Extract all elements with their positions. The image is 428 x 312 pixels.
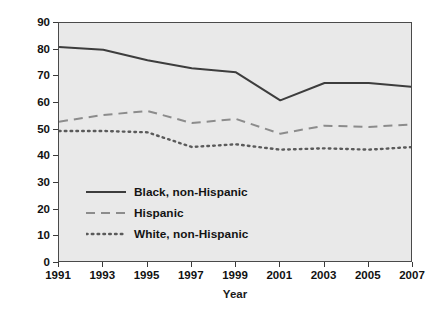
x-tick-mark-1999 <box>235 262 236 267</box>
y-axis-title: Percentage <box>2 0 24 44</box>
y-tick-label-20: 20 <box>24 203 50 214</box>
y-tick-label-70: 70 <box>24 70 50 81</box>
x-tick-mark-2005 <box>368 262 369 267</box>
legend-swatch-black-non-hispanic-icon <box>86 186 126 198</box>
x-tick-label-1997: 1997 <box>169 269 213 282</box>
x-tick-label-2001: 2001 <box>257 269 301 282</box>
x-tick-mark-2007 <box>412 262 413 267</box>
x-tick-label-2003: 2003 <box>302 269 346 282</box>
x-tick-label-1995: 1995 <box>125 269 169 282</box>
y-axis-tick-labels: 0102030405060708090 <box>22 0 50 312</box>
legend-label-black-non-hispanic: Black, non-Hispanic <box>134 185 248 199</box>
legend-item-black-non-hispanic: Black, non-Hispanic <box>86 182 248 202</box>
x-axis-tick-marks <box>58 262 412 268</box>
series-line-white-non-hispanic <box>59 131 412 150</box>
x-tick-mark-2001 <box>279 262 280 267</box>
y-tick-label-0: 0 <box>24 257 50 268</box>
y-tick-label-10: 10 <box>24 230 50 241</box>
x-axis-tick-labels: 199119931995199719992001200320052007 <box>58 269 412 285</box>
legend-swatch-white-non-hispanic-icon <box>86 228 126 240</box>
y-tick-label-60: 60 <box>24 97 50 108</box>
x-tick-label-2007: 2007 <box>390 269 428 282</box>
x-tick-label-1993: 1993 <box>80 269 124 282</box>
x-tick-mark-1995 <box>147 262 148 267</box>
x-tick-mark-1997 <box>191 262 192 267</box>
x-tick-mark-1991 <box>58 262 59 267</box>
y-tick-label-40: 40 <box>24 150 50 161</box>
x-tick-label-2005: 2005 <box>346 269 390 282</box>
y-tick-label-90: 90 <box>24 17 50 28</box>
x-tick-label-1999: 1999 <box>213 269 257 282</box>
chart-legend: Black, non-HispanicHispanicWhite, non-Hi… <box>86 182 316 244</box>
y-tick-label-30: 30 <box>24 177 50 188</box>
legend-item-white-non-hispanic: White, non-Hispanic <box>86 224 248 244</box>
legend-swatch-hispanic-icon <box>86 207 126 219</box>
x-tick-mark-2003 <box>324 262 325 267</box>
y-tick-label-80: 80 <box>24 43 50 54</box>
legend-label-hispanic: Hispanic <box>134 206 184 220</box>
series-line-black-non-hispanic <box>59 47 412 100</box>
y-axis-title-container: Percentage <box>2 22 24 262</box>
legend-label-white-non-hispanic: White, non-Hispanic <box>134 227 248 241</box>
legend-item-hispanic: Hispanic <box>86 203 184 223</box>
x-tick-mark-1993 <box>102 262 103 267</box>
y-tick-label-50: 50 <box>24 123 50 134</box>
x-tick-label-1991: 1991 <box>36 269 80 282</box>
chart-figure: Percentage 0102030405060708090 199119931… <box>0 0 428 312</box>
x-axis-title: Year <box>58 288 412 300</box>
